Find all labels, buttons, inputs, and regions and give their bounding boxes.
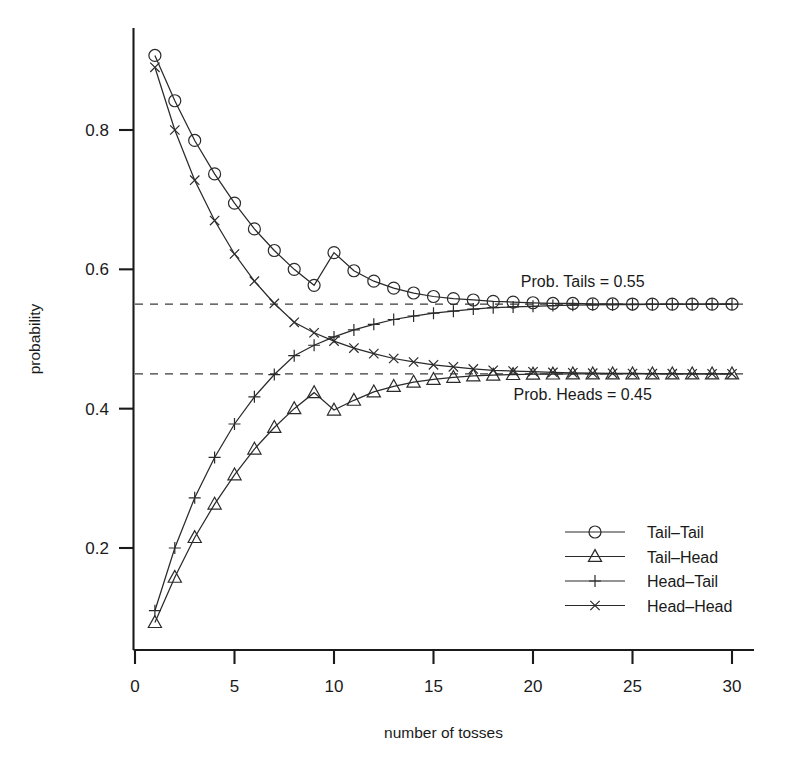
x-tick-label: 20 — [524, 677, 543, 696]
y-tick-label: 0.6 — [85, 260, 109, 279]
legend-label: Head–Tail — [647, 573, 718, 590]
x-tick-label: 5 — [230, 677, 239, 696]
x-tick-label: 0 — [130, 677, 139, 696]
x-tick-label: 15 — [424, 677, 443, 696]
x-tick-label: 25 — [623, 677, 642, 696]
y-tick-label: 0.4 — [85, 400, 109, 419]
x-tick-label: 30 — [723, 677, 742, 696]
y-tick-label: 0.2 — [85, 539, 109, 558]
y-tick-label: 0.8 — [85, 121, 109, 140]
reference-annotation: Prob. Tails = 0.55 — [521, 273, 645, 290]
legend-label: Tail–Tail — [647, 524, 704, 541]
probability-convergence-chart: 0.20.40.60.8051015202530number of tosses… — [0, 0, 801, 773]
x-tick-label: 10 — [325, 677, 344, 696]
reference-annotation: Prob. Heads = 0.45 — [514, 386, 652, 403]
legend-label: Tail–Head — [647, 549, 718, 566]
x-axis-title: number of tosses — [384, 724, 503, 741]
y-axis-title: probability — [26, 303, 43, 374]
chart-canvas: 0.20.40.60.8051015202530number of tosses… — [0, 0, 801, 773]
legend-label: Head–Head — [647, 598, 732, 615]
chart-background — [0, 0, 801, 773]
